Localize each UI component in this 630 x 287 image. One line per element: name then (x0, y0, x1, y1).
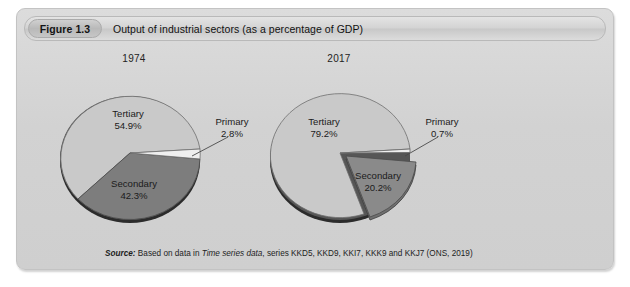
slice-value-secondary-1974: 42.3% (120, 190, 148, 201)
slice-value-secondary-2017: 20.2% (364, 182, 392, 193)
figure-source: Source: Based on data in Time series dat… (105, 249, 473, 258)
slice-label-secondary-2017: Secondary (355, 170, 401, 181)
slice-label-tertiary-2017: Tertiary (308, 116, 340, 127)
figure-header: Figure 1.3 Output of industrial sectors … (24, 16, 606, 41)
callout-value-primary-1974: 2.8% (221, 128, 243, 139)
pie-graphic-1974: Tertiary 54.9% Secondary 42.3% Primary 2… (52, 75, 208, 231)
callout-label-primary-1974: Primary (215, 116, 248, 127)
figure-caption: Output of industrial sectors (as a perce… (113, 23, 363, 35)
source-lead: Based on data in (136, 249, 202, 258)
slice-label-secondary-1974: Secondary (111, 178, 157, 189)
source-label: Source: (105, 249, 136, 258)
slice-value-tertiary-2017: 79.2% (310, 128, 338, 139)
slice-label-tertiary-1974: Tertiary (112, 108, 144, 119)
source-work-title: Time series data (202, 249, 263, 258)
figure-body: 1974 Tertiary (24, 43, 606, 263)
callout-value-primary-2017: 0.7% (431, 128, 453, 139)
chart-title-2017: 2017 (234, 53, 444, 64)
source-tail: , series KKD5, KKD9, KKI7, KKK9 and KKJ7… (262, 249, 472, 258)
figure-number-badge: Figure 1.3 (28, 19, 102, 38)
figure-root: Figure 1.3 Output of industrial sectors … (0, 0, 630, 287)
chart-title-1974: 1974 (34, 53, 234, 64)
figure-card: Figure 1.3 Output of industrial sectors … (16, 8, 614, 270)
pie-graphic-2017: Tertiary 79.2% Secondary 20.2% Primary 0… (262, 75, 418, 231)
slice-value-tertiary-1974: 54.9% (114, 120, 142, 131)
callout-label-primary-2017: Primary (425, 116, 458, 127)
